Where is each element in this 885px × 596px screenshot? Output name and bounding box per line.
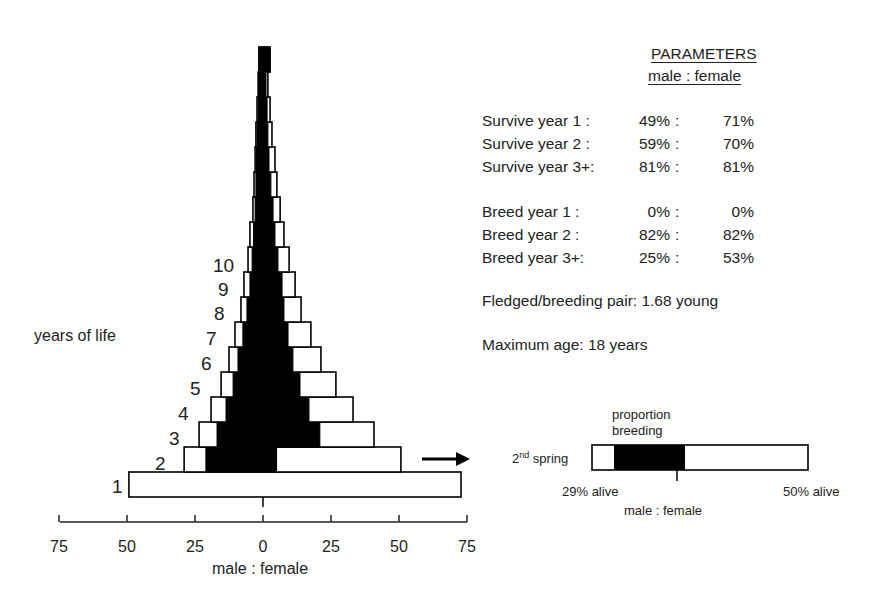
inset-axis-label: male : female (624, 503, 702, 518)
separator: : (675, 249, 679, 267)
bar-year-16 (257, 97, 270, 122)
row-label: Survive year 3+: (482, 158, 594, 176)
bar-year-10 (248, 247, 289, 272)
year-label-7: 7 (206, 328, 217, 349)
year-label-3: 3 (169, 428, 180, 449)
inset-left-label: 29% alive (562, 484, 618, 499)
row-label: Breed year 2 : (482, 226, 579, 244)
inset-right-label: 50% alive (783, 484, 839, 499)
inset-row-label: 2nd spring (512, 450, 568, 466)
parameters-subtitle: male : female (648, 67, 741, 85)
year-label-2: 2 (155, 453, 166, 474)
female-value: 71% (682, 112, 754, 130)
separator: : (675, 135, 679, 153)
bar-year-7 (235, 322, 311, 347)
year-label-4: 4 (178, 403, 189, 424)
bar-year-4 (211, 397, 353, 422)
population-pyramid-chart: 12345678910 7550250255075 (0, 0, 885, 596)
bar-year-8 (241, 297, 301, 322)
female-value: 81% (682, 158, 754, 176)
arrow-icon (422, 452, 470, 466)
year-label-1: 1 (112, 476, 123, 497)
separator: : (675, 112, 679, 130)
x-tick-label: 25 (322, 538, 340, 555)
row-label: Breed year 3+: (482, 249, 584, 267)
bar-year-15 (256, 122, 272, 147)
male-value: 25% (600, 249, 670, 267)
male-value: 81% (600, 158, 670, 176)
year-label-9: 9 (218, 279, 229, 300)
bar-year-11 (250, 222, 284, 247)
row-label: Survive year 1 : (482, 112, 590, 130)
bar-year-5 (221, 372, 336, 397)
female-value: 53% (682, 249, 754, 267)
bar-year-1 (129, 472, 461, 497)
year-label-10: 10 (213, 255, 234, 276)
parameters-title: PARAMETERS (651, 45, 757, 63)
female-value: 0% (682, 203, 754, 221)
x-axis-label: male : female (212, 560, 308, 578)
inset-second-spring-bar (592, 445, 808, 481)
inset-title-line2: breeding (612, 423, 663, 438)
max-age-value: Maximum age: 18 years (482, 336, 647, 354)
male-value: 0% (600, 203, 670, 221)
year-label-6: 6 (201, 353, 212, 374)
female-value: 70% (682, 135, 754, 153)
x-tick-label: 0 (259, 538, 268, 555)
bar-year-12 (253, 197, 280, 222)
x-axis: 7550250255075 (50, 515, 476, 555)
year-label-5: 5 (190, 378, 201, 399)
bar-year-3 (199, 422, 374, 447)
row-label: Survive year 2 : (482, 135, 590, 153)
row-label-sup: nd (519, 450, 529, 460)
year-label-8: 8 (214, 303, 225, 324)
bar-year-13 (254, 172, 277, 197)
separator: : (675, 158, 679, 176)
x-tick-label: 75 (50, 538, 68, 555)
row-label: Breed year 1 : (482, 203, 579, 221)
bar-year-18 (259, 47, 270, 72)
x-tick-label: 50 (118, 538, 136, 555)
male-value: 59% (600, 135, 670, 153)
bar-year-17 (258, 72, 268, 97)
x-tick-label: 25 (186, 538, 204, 555)
inset-title-line1: proportion (612, 407, 671, 422)
row-label-text: spring (529, 451, 568, 466)
bar-year-6 (229, 347, 321, 372)
x-tick-label: 50 (390, 538, 408, 555)
female-value: 82% (682, 226, 754, 244)
bar-year-14 (255, 147, 275, 172)
y-axis-label: years of life (34, 327, 116, 345)
male-value: 82% (600, 226, 670, 244)
male-value: 49% (600, 112, 670, 130)
x-tick-label: 75 (458, 538, 476, 555)
bar-year-2 (184, 447, 401, 472)
fledged-value: Fledged/breeding pair: 1.68 young (482, 292, 718, 310)
separator: : (675, 203, 679, 221)
separator: : (675, 226, 679, 244)
bar-year-9 (244, 272, 295, 297)
